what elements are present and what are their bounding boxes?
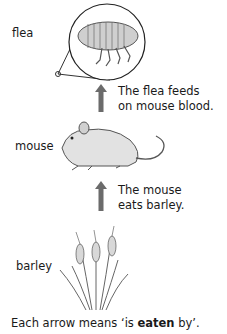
flea-label: flea [12,26,33,40]
arrow-note-flea: The flea feeds on mouse blood. [118,84,214,114]
caption-suffix: by’. [175,316,200,330]
note-line: The mouse [118,183,184,198]
flea-illustration [50,2,150,82]
caption-prefix: Each arrow means ‘is [11,316,137,330]
note-line: The flea feeds [118,84,214,99]
barley-illustration [56,226,136,312]
mouse-illustration [58,118,170,174]
arrow-note-mouse: The mouse eats barley. [118,183,184,213]
arrow-barley-to-mouse [95,181,107,211]
arrow-mouse-to-flea [95,84,107,112]
barley-label: barley [16,259,52,273]
note-line: on mouse blood. [118,99,214,114]
mouse-label: mouse [15,139,54,153]
caption-bold: eaten [137,316,174,330]
caption: Each arrow means ‘is eaten by’. [11,316,200,330]
note-line: eats barley. [118,198,184,213]
